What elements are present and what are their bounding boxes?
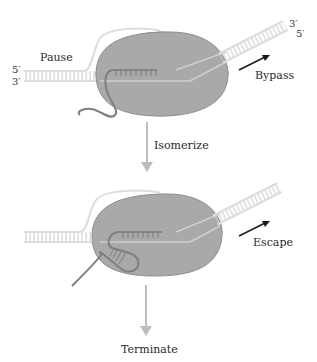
terminate-arrow-icon — [140, 285, 152, 336]
pause-label: Pause — [40, 51, 73, 64]
bypass-arrow-icon — [239, 55, 270, 70]
downstream-dna-duplex — [219, 21, 288, 63]
hairpin-complex: Escape — [24, 183, 293, 286]
paused-complex: Pause 5′ 3′ 3′ 5′ Bypass — [12, 18, 305, 117]
bypass-label: Bypass — [255, 69, 295, 82]
isomerize-arrow-icon — [141, 122, 153, 172]
escape-arrow-icon — [239, 221, 270, 236]
strand-3prime-left: 3′ — [12, 76, 21, 87]
terminate-label: Terminate — [121, 343, 178, 356]
strand-5prime-left: 5′ — [12, 64, 21, 75]
escape-label: Escape — [253, 236, 293, 249]
isomerize-label: Isomerize — [154, 139, 209, 152]
strand-5prime-right: 5′ — [296, 28, 305, 39]
upstream-dna-duplex-2 — [24, 232, 100, 242]
transcription-pause-diagram: Pause 5′ 3′ 3′ 5′ Bypass Isomerize — [0, 0, 317, 362]
downstream-dna-duplex-2 — [213, 183, 282, 225]
